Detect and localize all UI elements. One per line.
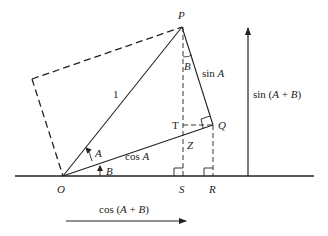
right-angle-S: [174, 168, 183, 176]
right-angle-R: [204, 168, 213, 176]
label-O: O: [57, 183, 65, 195]
label-Z: Z: [187, 139, 194, 151]
label-cosA: cos A: [125, 150, 149, 162]
label-S: S: [179, 183, 185, 195]
label-Q: Q: [218, 119, 226, 131]
label-angle-B: B: [106, 165, 113, 177]
label-sin-AB: sin (A + B): [253, 88, 301, 101]
angle-B-arc-P: [183, 55, 192, 57]
label-R: R: [208, 183, 216, 195]
label-angle-A: A: [94, 147, 102, 159]
dashed-rect-top: [32, 27, 182, 79]
label-angle-B-at-P: B: [184, 60, 191, 72]
label-sinA: sin A: [202, 67, 225, 79]
trig-addition-diagram: P Q O S R T Z 1 sin A cos A A B B sin (A…: [0, 0, 328, 236]
label-P: P: [177, 9, 185, 21]
label-T: T: [172, 119, 179, 131]
angle-A-arc: [86, 148, 92, 161]
dashed-rect-left: [32, 79, 63, 176]
label-cos-AB: cos (A + B): [99, 203, 149, 216]
segment-OP: [63, 27, 182, 176]
label-hypotenuse: 1: [113, 88, 119, 100]
